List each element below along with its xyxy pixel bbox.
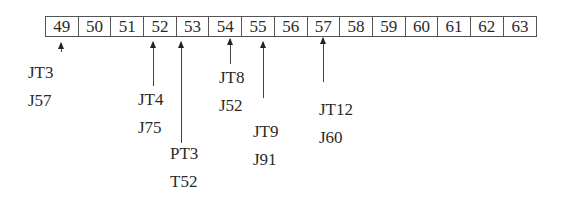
cell-51: 51: [111, 17, 144, 36]
cell-60: 60: [406, 17, 439, 36]
label-line: J60: [319, 124, 353, 152]
arrow-up-icon-jt3: [61, 43, 62, 52]
arrow-up-icon-jt4: [153, 42, 154, 86]
pointer-label-jt12: JT12 J60: [319, 96, 353, 152]
cell-55: 55: [242, 17, 275, 36]
cell-62: 62: [471, 17, 504, 36]
cell-63: 63: [504, 17, 537, 36]
label-line: JT4: [138, 86, 164, 114]
label-line: J91: [253, 146, 279, 174]
label-line: J75: [138, 114, 164, 142]
pointer-label-jt4: JT4 J75: [138, 86, 164, 142]
cell-59: 59: [373, 17, 406, 36]
cell-58: 58: [340, 17, 373, 36]
arrow-up-icon-jt8: [230, 39, 231, 64]
cell-54: 54: [209, 17, 242, 36]
arrow-up-icon-jt9: [263, 42, 264, 98]
label-line: T52: [170, 168, 198, 196]
arrow-up-icon-jt12: [323, 38, 324, 82]
cell-57: 57: [308, 17, 341, 36]
label-line: PT3: [170, 140, 198, 168]
label-line: JT8: [219, 64, 245, 92]
cell-56: 56: [275, 17, 308, 36]
pointer-label-pt3: PT3 T52: [170, 140, 198, 196]
pointer-label-jt3: JT3 J57: [28, 59, 54, 115]
number-strip: 49 50 51 52 53 54 55 56 57 58 59 60 61 6…: [45, 16, 537, 37]
label-line: JT12: [319, 96, 353, 124]
pointer-label-jt8: JT8 J52: [219, 64, 245, 120]
label-line: JT3: [28, 59, 54, 87]
cell-52: 52: [144, 17, 177, 36]
label-line: J57: [28, 87, 54, 115]
cell-53: 53: [177, 17, 210, 36]
label-line: J52: [219, 92, 245, 120]
label-line: JT9: [253, 118, 279, 146]
cell-61: 61: [438, 17, 471, 36]
pointer-label-jt9: JT9 J91: [253, 118, 279, 174]
arrow-up-icon-pt3: [181, 42, 182, 143]
cell-49: 49: [46, 17, 79, 36]
cell-50: 50: [79, 17, 112, 36]
